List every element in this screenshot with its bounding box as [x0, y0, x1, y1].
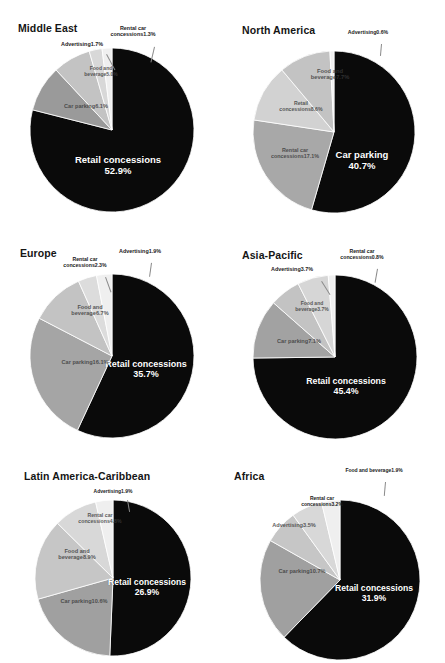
slice-label-percent: 3.5%	[303, 522, 316, 528]
slice-label-food-and-beverage: Food and beverage7.7%	[308, 68, 352, 81]
slice-label-advertising: Advertising1.7%	[55, 41, 109, 47]
chart-title: Middle East	[18, 22, 77, 34]
slice-label-percent: 3.2%	[331, 501, 342, 507]
slice-label-retail-concessions: Retail concessions8.6%	[278, 101, 324, 112]
slice-label-advertising: Advertising3.7%	[265, 266, 319, 272]
slice-label-text: Rental car concessions	[111, 25, 147, 37]
slice-label-percent: 5.0%	[106, 71, 117, 77]
slice-label-rental-car-concessions: Rental car concessions17.1%	[270, 148, 320, 160]
slice-label-percent: 52.9%	[58, 166, 178, 177]
slice-label-percent: 0.6%	[376, 29, 388, 35]
slice-label-car-parking: Car parking10.7%	[273, 568, 331, 574]
slice-label-text: Rental car concessions	[340, 248, 374, 260]
slice-label-percent: 26.9%	[107, 588, 187, 598]
slice-label-food-and-beverage: Food and beverage1.9%	[342, 468, 406, 474]
pie-chart-africa: AfricaRetail concessions31.9%Car parking…	[222, 450, 445, 663]
slice-label-percent: 17.1%	[304, 153, 319, 159]
slice-label-car-parking: Car parking40.7%	[314, 150, 410, 171]
slice-label-car-parking: Car parking7.1%	[270, 338, 328, 344]
slice-label-food-and-beverage: Food and beverage3.7%	[291, 301, 333, 312]
pie-chart-europe: EuropeRetail concessions35.7%Car parking…	[0, 225, 222, 450]
slice-label-percent: 10.7%	[310, 568, 326, 574]
slice-label-text: Rental car concessions	[271, 147, 308, 159]
slice-label-text: Car parking	[279, 568, 310, 574]
slice-label-percent: 3.7%	[317, 306, 328, 312]
slice-label-text: Car parking	[277, 338, 308, 344]
slice-label-text: Advertising	[348, 29, 377, 35]
slice-label-text: Retail concessions	[335, 583, 413, 593]
slice-label-text: Retail concessions	[306, 376, 386, 386]
pie-chart-north-america: North AmericaCar parking40.7%Rental car …	[222, 0, 445, 225]
slice-label-car-parking: Car parking6.1%	[55, 103, 117, 109]
slice-label-advertising: Advertising1.9%	[90, 489, 136, 495]
slice-label-percent: 1.9%	[121, 488, 132, 494]
slice-label-advertising: Advertising3.5%	[269, 522, 319, 528]
slice-label-percent: 16.1%	[93, 359, 109, 365]
slice-label-text: Rental car concessions	[78, 512, 112, 524]
slice-label-percent: 7.7%	[336, 74, 349, 80]
chart-title: Asia-Pacific	[242, 249, 303, 261]
chart-title: North America	[242, 24, 315, 36]
slice-label-text: Retail concessions	[75, 154, 161, 165]
slice-label-rental-car-concessions: Rental car concessions4.8%	[76, 513, 124, 524]
slice-label-retail-concessions: Retail concessions35.7%	[104, 359, 188, 379]
slice-label-retail-concessions: Retail concessions31.9%	[333, 584, 415, 603]
slice-label-text: Retail concessions	[279, 100, 310, 112]
slice-label-percent: 3.7%	[301, 266, 313, 272]
pie-graphic	[251, 273, 419, 441]
slice-label-percent: 2.3%	[95, 262, 107, 268]
slice-label-percent: 35.7%	[104, 369, 188, 379]
slice-label-percent: 7.1%	[308, 338, 321, 344]
slice-label-rental-car-concessions: Rental car concessions1.3%	[107, 25, 159, 37]
slice-label-percent: 31.9%	[333, 594, 415, 604]
slice-label-retail-concessions: Retail concessions26.9%	[107, 578, 187, 597]
slice-label-retail-concessions: Retail concessions52.9%	[58, 155, 178, 176]
slice-label-rental-car-concessions: Rental car concessions3.2%	[298, 496, 346, 507]
pie-chart-middle-east: Middle EastRetail concessions52.9%Car pa…	[0, 0, 222, 225]
slice-label-percent: 8.9%	[83, 554, 96, 560]
slice-label-food-and-beverage: Food and beverage5.0%	[79, 66, 123, 77]
slice-label-text: Advertising	[271, 266, 301, 272]
slice-label-text: Food and beverage	[345, 467, 391, 473]
pie-chart-grid: Middle EastRetail concessions52.9%Car pa…	[0, 0, 445, 663]
slice-label-text: Advertising	[94, 488, 122, 494]
slice-label-percent: 8.6%	[311, 106, 323, 112]
leader-line-food-and-beverage	[384, 482, 386, 496]
slice-label-advertising: Advertising0.6%	[344, 30, 392, 36]
slice-label-percent: 1.7%	[91, 41, 103, 47]
pie-chart-latin-america-caribbean: Latin America-CaribbeanRetail concession…	[0, 450, 222, 663]
slice-label-percent: 0.8%	[372, 254, 384, 260]
slice-label-car-parking: Car parking16.1%	[56, 359, 114, 365]
slice-label-rental-car-concessions: Rental car concessions2.3%	[59, 257, 111, 269]
chart-title: Latin America-Caribbean	[24, 470, 150, 482]
slice-label-text: Car parking	[62, 359, 93, 365]
slice-label-percent: 1.3%	[143, 31, 155, 37]
slice-label-car-parking: Car parking10.6%	[55, 598, 113, 604]
slice-label-text: Advertising	[61, 41, 91, 47]
chart-title: Africa	[234, 470, 264, 482]
pie-graphic	[28, 272, 196, 440]
slice-label-text: Car parking	[336, 149, 389, 160]
slice-label-percent: 10.6%	[92, 598, 108, 604]
slice-label-food-and-beverage: Food and beverage6.7%	[66, 304, 114, 316]
slice-label-percent: 1.9%	[149, 248, 161, 254]
slice-label-text: Advertising	[272, 522, 303, 528]
slice-label-rental-car-concessions: Rental car concessions0.8%	[335, 249, 389, 261]
slice-label-percent: 6.7%	[96, 310, 109, 316]
slice-label-text: Advertising	[119, 248, 149, 254]
slice-label-food-and-beverage: Food and beverage8.9%	[55, 548, 99, 560]
slice-label-text: Rental car concessions	[63, 256, 97, 268]
pie-chart-asia-pacific: Asia-PacificRetail concessions45.4%Car p…	[222, 225, 445, 450]
slice-label-text: Retail concessions	[108, 577, 186, 587]
slice-label-percent: 6.1%	[95, 103, 108, 109]
slice-label-percent: 1.9%	[391, 467, 402, 473]
slice-label-percent: 45.4%	[290, 387, 402, 397]
chart-title: Europe	[20, 247, 57, 259]
slice-label-percent: 4.8%	[110, 518, 122, 524]
slice-label-percent: 40.7%	[314, 161, 410, 172]
slice-label-text: Car parking	[64, 103, 95, 109]
slice-label-text: Retail concessions	[105, 359, 187, 369]
slice-label-text: Rental car concessions	[301, 495, 334, 507]
slice-label-retail-concessions: Retail concessions45.4%	[290, 377, 402, 397]
slice-label-text: Car parking	[61, 598, 92, 604]
